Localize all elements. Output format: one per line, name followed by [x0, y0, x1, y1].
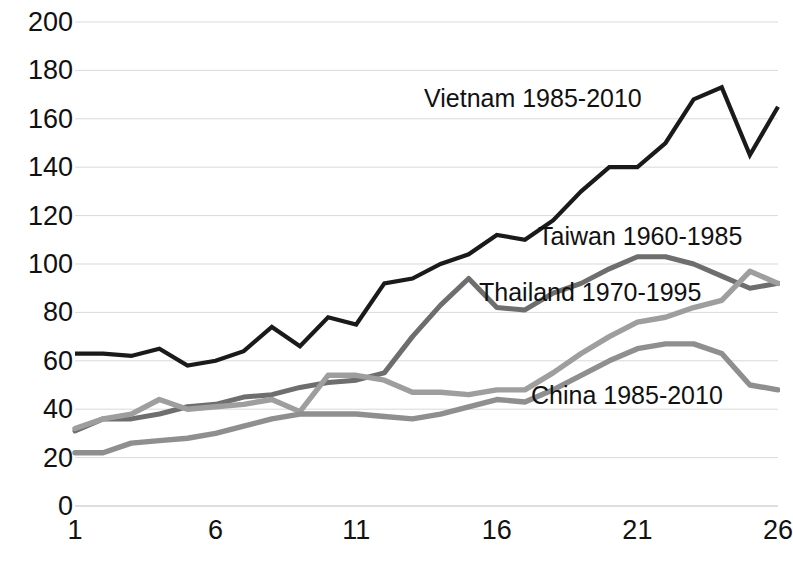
- x-axis-tick-label: 16: [482, 515, 512, 546]
- y-axis-tick-label: 160: [28, 103, 73, 134]
- x-axis-tick-label: 11: [342, 515, 370, 546]
- series-label-taiwan: Taiwan 1960-1985: [538, 222, 742, 251]
- y-axis-tick-label: 140: [28, 152, 73, 183]
- x-axis-tick-label: 1: [67, 515, 82, 546]
- x-axis-tick-label: 6: [208, 515, 223, 546]
- x-axis-tick-label: 26: [763, 515, 793, 546]
- series-label-vietnam: Vietnam 1985-2010: [424, 84, 642, 113]
- y-axis-tick-label: 120: [28, 200, 73, 231]
- y-axis-tick-label: 80: [43, 297, 73, 328]
- series-label-thailand: Thailand 1970-1995: [479, 278, 701, 307]
- series-label-china: China 1985-2010: [531, 381, 723, 410]
- y-axis-tick-label: 20: [43, 442, 73, 473]
- y-axis-tick-label: 60: [43, 345, 73, 376]
- y-axis-tick-label: 40: [43, 394, 73, 425]
- y-axis-tick-label: 100: [28, 249, 73, 280]
- x-axis-tick-label: 21: [622, 515, 652, 546]
- y-axis-tick-label: 180: [28, 55, 73, 86]
- y-axis-tick-label: 200: [28, 7, 73, 38]
